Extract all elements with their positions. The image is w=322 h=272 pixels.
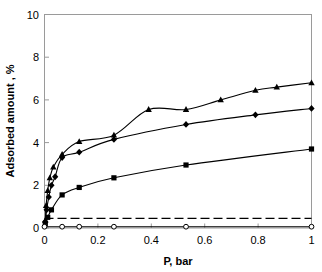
chart-container: 00.20.40.60.81 0246810 P, bar Adsorbed a… xyxy=(0,0,322,272)
y-tick-label: 10 xyxy=(27,9,39,21)
marker-square xyxy=(77,185,82,190)
marker-open-circle xyxy=(309,224,314,229)
x-tick-label: 1 xyxy=(308,234,314,246)
marker-square xyxy=(111,175,116,180)
y-tick-label: 8 xyxy=(33,51,39,63)
y-tick-label: 2 xyxy=(33,179,39,191)
x-tick-label: 0.6 xyxy=(197,234,212,246)
marker-open-circle xyxy=(77,224,82,229)
x-tick-label: 0.4 xyxy=(144,234,159,246)
x-tick-label: 0.2 xyxy=(90,234,105,246)
x-axis-title: P, bar xyxy=(163,255,193,267)
marker-open-circle xyxy=(42,224,47,229)
y-tick-label: 0 xyxy=(33,222,39,234)
marker-open-circle xyxy=(60,224,65,229)
marker-square xyxy=(49,207,54,212)
marker-square xyxy=(45,215,50,220)
y-tick-label: 4 xyxy=(33,137,39,149)
x-tick-label: 0 xyxy=(41,234,47,246)
y-tick-label: 6 xyxy=(33,94,39,106)
y-tick-labels: 0246810 xyxy=(27,9,39,235)
adsorption-isotherm-chart: 00.20.40.60.81 0246810 P, bar Adsorbed a… xyxy=(0,0,322,272)
marker-square xyxy=(183,162,188,167)
marker-square xyxy=(309,146,314,151)
y-axis-title: Adsorbed amount , % xyxy=(4,64,16,177)
x-tick-label: 0.8 xyxy=(250,234,265,246)
marker-open-circle xyxy=(184,224,189,229)
marker-square xyxy=(60,192,65,197)
marker-open-circle xyxy=(112,224,117,229)
plot-frame xyxy=(45,15,312,229)
x-tick-labels: 00.20.40.60.81 xyxy=(41,234,314,246)
